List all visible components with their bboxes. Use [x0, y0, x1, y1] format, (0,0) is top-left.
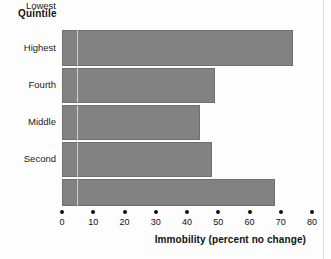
bar-middle [62, 105, 200, 140]
x-tick-label: 30 [146, 217, 166, 227]
page-edge-artifact [323, 0, 324, 259]
x-tick-label: 10 [83, 217, 103, 227]
x-tick-label: 40 [177, 217, 197, 227]
bar-fourth [62, 68, 215, 103]
category-label-middle: Middle [4, 116, 56, 127]
tick-dot [91, 210, 95, 214]
tick-dot [216, 210, 220, 214]
tick-dot [154, 210, 158, 214]
x-tick-label: 60 [240, 217, 260, 227]
x-tick-label: 50 [208, 217, 228, 227]
category-label-highest: Highest [4, 42, 56, 53]
tick-dot [310, 210, 314, 214]
tick-dot [248, 210, 252, 214]
tick-dot [185, 210, 189, 214]
x-tick-label: 70 [271, 217, 291, 227]
x-tick-label: 0 [52, 217, 72, 227]
tick-dot [60, 210, 64, 214]
category-label-lowest: Lowest [4, 0, 56, 11]
x-tick-label: 80 [302, 217, 322, 227]
bar-second [62, 142, 212, 177]
scan-fold-artifact [77, 22, 78, 208]
tick-dot [279, 210, 283, 214]
category-label-second: Second [4, 153, 56, 164]
x-axis-label: Immobility (percent no change) [0, 234, 320, 245]
x-tick-label: 20 [115, 217, 135, 227]
tick-dot [123, 210, 127, 214]
category-label-fourth: Fourth [4, 79, 56, 90]
bar-highest [62, 30, 293, 66]
bar-chart: Quintile Highest Fourth Middle Second Lo… [0, 0, 331, 259]
bar-lowest [62, 179, 275, 206]
